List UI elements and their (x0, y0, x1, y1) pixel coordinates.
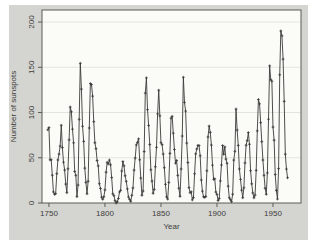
y-tick-label-100: 100 (27, 105, 36, 119)
x-tick-label-1850: 1850 (152, 209, 170, 218)
y-tick-label-200: 200 (27, 15, 36, 29)
y-tick-label-150: 150 (27, 60, 36, 74)
x-tick-label-1800: 1800 (96, 209, 114, 218)
x-axis-title: Year (163, 222, 180, 231)
sunspot-figure: 05010015020017501800185019001950Number o… (0, 0, 313, 251)
y-axis-title: Number of sunspots (9, 71, 18, 143)
sunspot-time-series-chart: 05010015020017501800185019001950Number o… (0, 0, 313, 251)
plot-area-background (42, 10, 301, 203)
x-tick-label-1750: 1750 (40, 209, 58, 218)
y-tick-label-50: 50 (27, 153, 36, 162)
x-tick-label-1950: 1950 (264, 209, 282, 218)
y-tick-label-0: 0 (27, 200, 36, 205)
x-tick-label-1900: 1900 (208, 209, 226, 218)
